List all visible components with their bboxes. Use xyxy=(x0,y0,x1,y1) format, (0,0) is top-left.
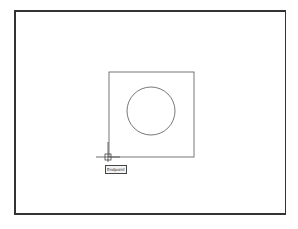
crosshair-cursor xyxy=(96,142,120,162)
square-shape[interactable] xyxy=(109,72,194,157)
drawing-canvas[interactable] xyxy=(0,0,298,229)
osnap-tooltip: Endpoint xyxy=(105,165,127,174)
circle-shape[interactable] xyxy=(127,87,175,135)
